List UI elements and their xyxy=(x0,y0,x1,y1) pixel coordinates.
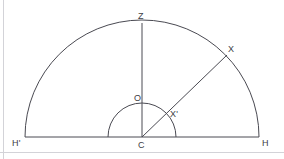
label-point-h-prime: H' xyxy=(12,139,21,148)
diagram-canvas: Z X O X' H' C H xyxy=(0,0,284,159)
label-point-c: C xyxy=(138,141,145,150)
label-point-x: X xyxy=(228,45,234,54)
label-point-x-prime: X' xyxy=(170,110,178,119)
label-point-z: Z xyxy=(138,12,144,21)
geometry-figure xyxy=(0,0,284,159)
label-point-o: O xyxy=(134,94,141,103)
label-point-h: H xyxy=(262,139,269,148)
oblique-ray-line xyxy=(142,55,227,137)
